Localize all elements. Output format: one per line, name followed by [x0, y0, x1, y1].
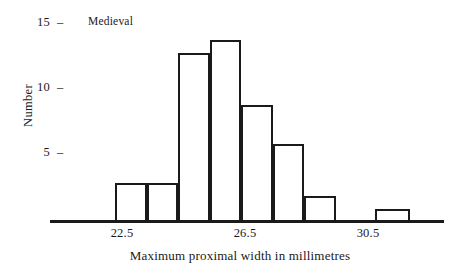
bar-22.5-23.5 [147, 183, 178, 222]
histogram-figure: Number 15 – 10 – 5 – Medieval 22.5 26.5 … [0, 0, 464, 274]
x-tick-label-30.5: 30.5 [343, 227, 393, 240]
x-tick-label-22.5: 22.5 [97, 227, 147, 240]
x-axis-title: Maximum proximal width in millimetres [8, 248, 464, 264]
x-axis-line [50, 220, 444, 223]
bar-23.5-24.5 [178, 53, 210, 222]
x-tick-label-26.5: 26.5 [220, 227, 270, 240]
bar-25.5-26.5 [241, 105, 273, 222]
bar-27.5-28.5 [304, 196, 336, 222]
bar-26.5-27.5 [273, 144, 304, 222]
bar-21.5-22.5 [115, 183, 147, 222]
bar-24.5-25.5 [210, 40, 241, 222]
